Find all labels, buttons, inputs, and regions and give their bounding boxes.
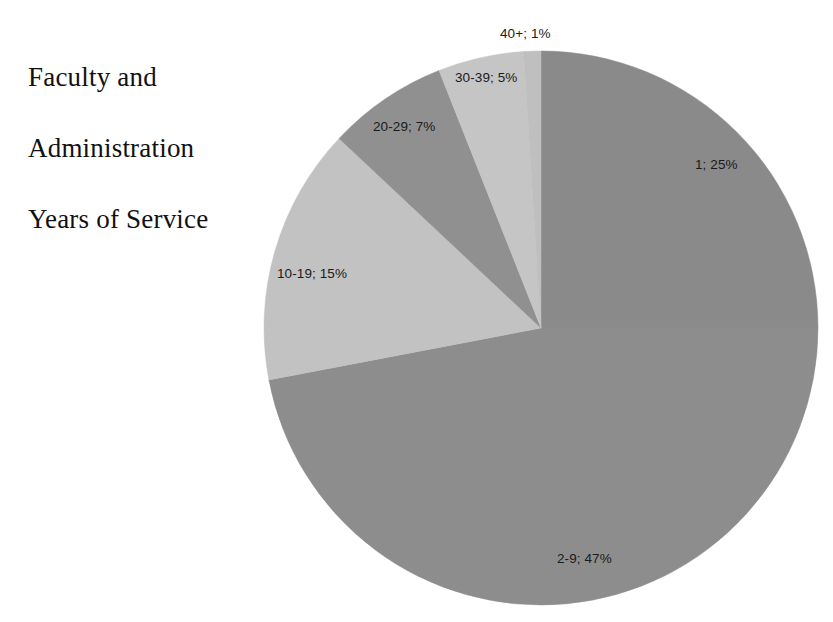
slice-label-2-9: 2-9; 47%: [557, 551, 612, 566]
slice-label-1: 1; 25%: [695, 157, 738, 172]
chart-page: Faculty and Administration Years of Serv…: [0, 0, 833, 622]
pie-slice-group: [264, 51, 818, 605]
pie-slice-2-9: [269, 328, 818, 605]
pie-chart: [0, 0, 833, 622]
slice-label-30-39: 30-39; 5%: [455, 70, 517, 85]
pie-chart-svg: [0, 0, 833, 622]
slice-label-20-29: 20-29; 7%: [373, 119, 435, 134]
slice-label-40-plus: 40+; 1%: [500, 26, 551, 41]
pie-slice-1: [541, 51, 818, 328]
slice-label-10-19: 10-19; 15%: [277, 266, 347, 281]
